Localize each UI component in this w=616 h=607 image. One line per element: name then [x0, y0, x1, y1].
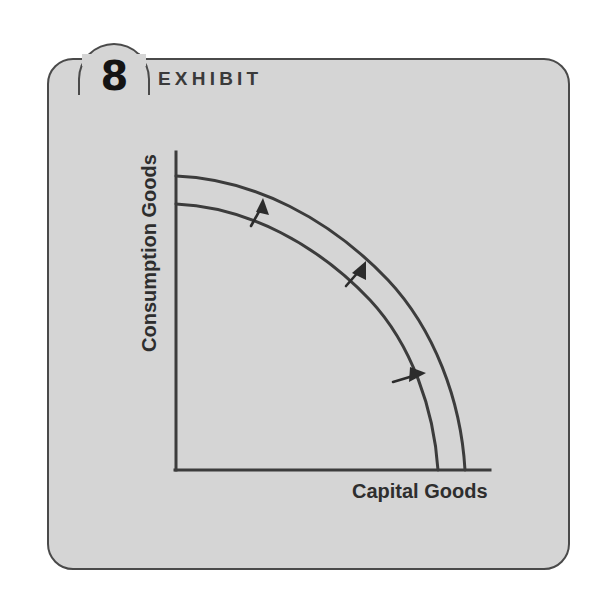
ppf-chart	[47, 58, 570, 570]
exhibit-number: 8	[78, 52, 150, 100]
ppf-curve-shifted	[176, 176, 465, 470]
ppf-curve-initial	[176, 204, 438, 470]
shift-arrow-middle	[346, 261, 366, 286]
chart-axes	[175, 152, 490, 470]
exhibit-figure: 8 EXHIBIT Consumption Goods Capital Good…	[0, 0, 616, 607]
shift-arrow-lower	[393, 367, 426, 382]
x-axis-label: Capital Goods	[352, 480, 488, 503]
exhibit-label: EXHIBIT	[158, 68, 262, 90]
y-axis-label: Consumption Goods	[138, 154, 161, 352]
